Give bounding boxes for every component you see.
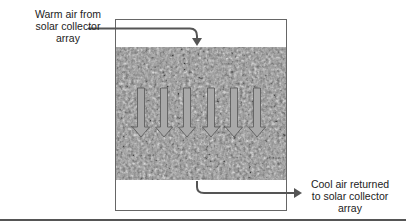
- warm-air-label-line: Warm air from: [22, 8, 114, 20]
- cool-air-label-line: to solar collector: [300, 190, 400, 202]
- warm-air-label-line: solar collector: [22, 20, 114, 32]
- warm-air-label-line: array: [22, 32, 114, 44]
- cool-air-label-line: array: [300, 202, 400, 214]
- cool-air-label: Cool air returned to solar collector arr…: [300, 178, 400, 214]
- bottom-rule: [0, 219, 406, 221]
- cool-air-label-line: Cool air returned: [300, 178, 400, 190]
- warm-air-label: Warm air from solar collector array: [22, 8, 114, 44]
